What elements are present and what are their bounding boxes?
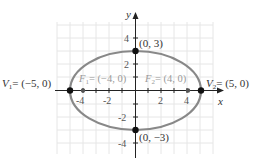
y-tick-label: 4: [124, 33, 129, 44]
covertex-bottom-point: [132, 127, 138, 133]
y-tick-label: 2: [124, 59, 129, 70]
x-axis-label: x: [217, 95, 223, 107]
focus-f2-point: [186, 88, 190, 92]
focus-f1-point: [81, 88, 85, 92]
y-tick-label: -4: [118, 138, 126, 149]
x-tick-label: -2: [103, 95, 111, 106]
focus-f1-label: F1= (−4, 0): [78, 73, 127, 86]
x-tick-label: 2: [158, 95, 163, 106]
focus-f2-label: F2= (4, 0): [144, 73, 187, 86]
x-tick-label: -4: [76, 95, 84, 106]
vertex-v1-label: V1= (−5, 0): [2, 77, 52, 91]
covertex-top-label: (0, 3): [139, 37, 163, 50]
y-tick-label: -2: [118, 112, 126, 123]
covertex-top-point: [132, 48, 138, 54]
vertex-v2-label: V2= (5, 0): [206, 77, 249, 91]
vertex-v1-point: [67, 87, 73, 93]
vertex-v2-point: [198, 87, 204, 93]
x-tick-label: 4: [184, 95, 189, 106]
covertex-bottom-label: (0, −3): [139, 131, 169, 144]
ellipse-diagram: y x -4 -2 2 4 4 2 -2 -4 V1= (−5, 0) V2= …: [0, 0, 264, 164]
y-axis-label: y: [125, 8, 131, 20]
